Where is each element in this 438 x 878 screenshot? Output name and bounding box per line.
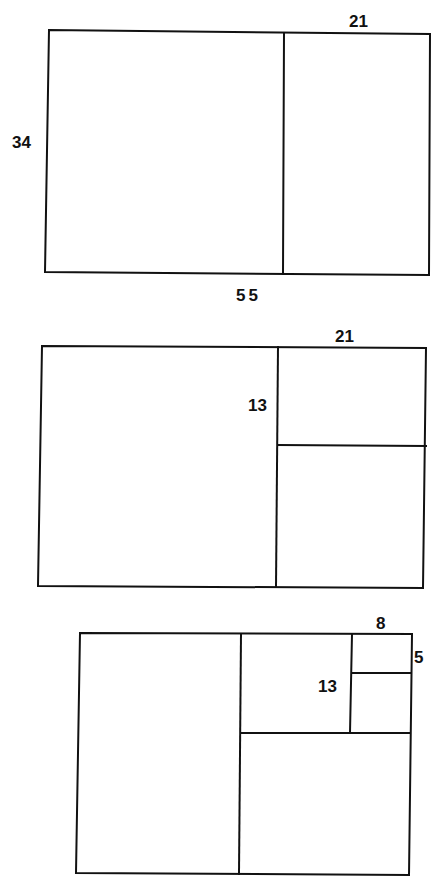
divider-vertical — [276, 347, 278, 587]
outer-rectangle — [45, 30, 430, 275]
divider-vertical-main — [239, 634, 241, 874]
label-inner: 13 — [318, 677, 337, 696]
diagram-1: 21 34 55 — [12, 12, 430, 305]
divider-vertical-small — [350, 634, 352, 733]
outer-rectangle — [38, 346, 426, 588]
label-top: 21 — [335, 327, 354, 346]
label-bottom: 55 — [236, 286, 261, 305]
divider-horizontal — [278, 445, 426, 446]
diagram-2: 21 13 — [38, 327, 426, 588]
outer-rectangle — [76, 633, 412, 875]
divider-vertical — [283, 33, 284, 274]
diagram-3: 8 5 13 — [76, 614, 423, 875]
label-right: 5 — [414, 648, 423, 667]
label-inner: 13 — [248, 396, 267, 415]
fibonacci-rectangles-figure: 21 34 55 21 13 8 5 13 — [0, 0, 438, 878]
label-top: 21 — [349, 12, 368, 31]
label-top: 8 — [376, 614, 385, 633]
label-left: 34 — [12, 133, 31, 152]
